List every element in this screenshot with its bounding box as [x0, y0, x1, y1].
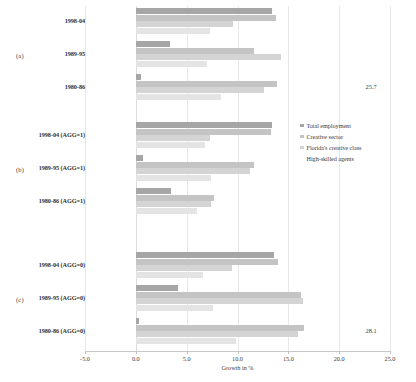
bar	[136, 61, 207, 67]
chart-root: (a)1998-041989-951980-8625.7(b)1998-04 (…	[0, 0, 416, 382]
axis-tick	[390, 351, 391, 354]
bar	[136, 208, 197, 214]
bars	[85, 283, 390, 313]
bar	[136, 298, 303, 304]
bar-group: 1989-95	[0, 39, 416, 69]
bar	[136, 48, 254, 54]
x-axis-title: Growth in %	[222, 364, 254, 371]
bar	[136, 94, 221, 100]
axis-tick	[339, 351, 340, 354]
overflow-value-label: 25.7	[366, 83, 377, 90]
bar	[136, 142, 205, 148]
bar	[136, 54, 281, 60]
bar	[136, 259, 278, 265]
bar	[136, 285, 178, 291]
legend-swatch-icon	[300, 146, 304, 150]
axis-tick-label: 10.0	[232, 355, 243, 362]
axis-tick-label: 0.0	[132, 355, 140, 362]
axis-tick	[288, 351, 289, 354]
category-label: 1980-86 (AGG=1)	[0, 197, 85, 204]
category-label: 1998-04 (AGG=1)	[0, 131, 85, 138]
legend-swatch-icon	[300, 124, 304, 128]
bar	[136, 41, 171, 47]
bars	[85, 186, 390, 216]
bar	[136, 28, 210, 34]
bar	[136, 15, 276, 21]
legend-label: Creative sector	[307, 133, 344, 140]
bar-group: 1980-8625.7	[0, 72, 416, 102]
bar	[136, 87, 264, 93]
axis-tick-label: 5.0	[183, 355, 191, 362]
legend-swatch-icon	[300, 157, 304, 161]
axis-tick	[238, 351, 239, 354]
bar	[136, 162, 254, 168]
axis-tick	[187, 351, 188, 354]
bar	[136, 129, 271, 135]
bar-group: 1998-04	[0, 6, 416, 36]
axis-tick-label: 25.0	[385, 355, 396, 362]
bars	[85, 6, 390, 36]
bars	[85, 39, 390, 69]
bar	[136, 135, 210, 141]
category-label: 1998-04	[0, 17, 85, 24]
legend: Total employmentCreative sectorFlorida's…	[300, 120, 412, 164]
bar	[136, 201, 211, 207]
legend-label: High-skilled agents	[307, 155, 354, 162]
bar	[136, 265, 233, 271]
bar	[136, 252, 274, 258]
bar-group: 1980-86 (AGG=0)28.1	[0, 316, 416, 346]
axis-tick-label: 15.0	[283, 355, 294, 362]
bar	[136, 305, 213, 311]
bar	[136, 155, 143, 161]
axis-tick-label: -5.0	[80, 355, 90, 362]
bar	[136, 331, 299, 337]
category-label: 1989-95 (AGG=1)	[0, 164, 85, 171]
bars: 25.7	[85, 72, 390, 102]
bar	[136, 81, 277, 87]
panel-c: (c)1998-04 (AGG=0)1989-95 (AGG=0)1980-86…	[0, 250, 416, 349]
overflow-value-label: 28.1	[366, 327, 377, 334]
category-label: 1998-04 (AGG=0)	[0, 261, 85, 268]
bar-group: 1980-86 (AGG=1)	[0, 186, 416, 216]
category-label: 1989-95 (AGG=0)	[0, 294, 85, 301]
legend-swatch-icon	[300, 135, 304, 139]
bars: 28.1	[85, 316, 390, 346]
bar	[136, 292, 301, 298]
bar	[136, 122, 272, 128]
legend-item: Total employment	[300, 120, 412, 131]
legend-item: Florida's creative class	[300, 142, 412, 153]
legend-item: Creative sector	[300, 131, 412, 142]
bar	[136, 318, 139, 324]
category-label: 1989-95	[0, 50, 85, 57]
bar	[136, 21, 234, 27]
bar	[136, 338, 237, 344]
category-label: 1980-86 (AGG=0)	[0, 327, 85, 334]
bar	[136, 195, 214, 201]
axis-tick	[85, 351, 86, 354]
legend-label: Total employment	[307, 122, 351, 129]
axis-tick	[136, 351, 137, 354]
legend-label: Florida's creative class	[307, 144, 362, 151]
legend-item: High-skilled agents	[300, 153, 412, 164]
bar-group: 1989-95 (AGG=0)	[0, 283, 416, 313]
bar	[136, 74, 141, 80]
bar	[136, 188, 172, 194]
bar	[136, 175, 211, 181]
x-axis: -5.00.05.010.015.020.025.0 Growth in %	[85, 351, 390, 377]
bar	[136, 272, 203, 278]
bar-group: 1998-04 (AGG=0)	[0, 250, 416, 280]
axis-tick-label: 20.0	[334, 355, 345, 362]
bar	[136, 8, 272, 14]
bars	[85, 250, 390, 280]
category-label: 1980-86	[0, 83, 85, 90]
bar	[136, 168, 250, 174]
bar	[136, 325, 304, 331]
panel-a: (a)1998-041989-951980-8625.7	[0, 6, 416, 105]
